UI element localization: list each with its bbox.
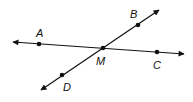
point-label-d: D: [63, 81, 71, 93]
point-d: [60, 73, 65, 78]
point-label-a: A: [35, 27, 43, 39]
line-bd: [41, 10, 159, 90]
point-label-c: C: [153, 59, 161, 71]
point-b: [136, 23, 141, 28]
point-label-m: M: [96, 55, 106, 67]
point-c: [155, 50, 160, 55]
point-a: [37, 42, 42, 47]
point-m: [101, 46, 106, 51]
geometry-diagram: ABCDM: [0, 0, 193, 102]
point-label-b: B: [130, 8, 137, 20]
